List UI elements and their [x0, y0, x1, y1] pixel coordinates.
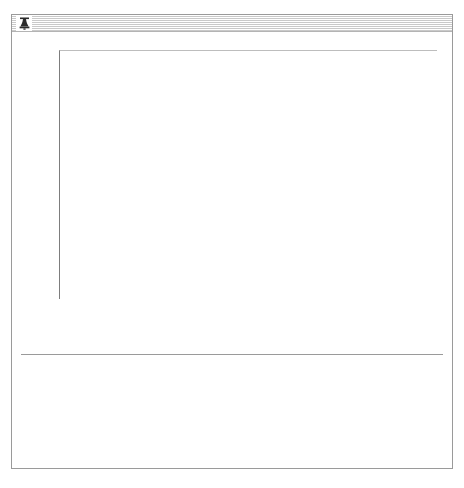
legend-item-democratic — [200, 340, 211, 347]
legend-swatch-democratic — [200, 340, 207, 347]
chart — [12, 39, 452, 339]
stacked-area-svg — [60, 51, 437, 299]
figure-card — [11, 14, 453, 469]
x-axis-tick-labels — [59, 301, 437, 317]
y-axis-tick-labels — [16, 39, 58, 339]
heritage-bell-icon — [16, 16, 32, 31]
brand-header-bar — [12, 15, 452, 32]
chart-legend — [12, 340, 452, 347]
plot-area — [59, 50, 437, 299]
source-divider — [21, 354, 443, 355]
legend-swatch-anti-democratic — [253, 340, 260, 347]
legend-item-anti-democratic — [253, 340, 264, 347]
